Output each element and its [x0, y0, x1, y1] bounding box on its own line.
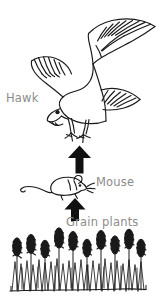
grain-head: [55, 228, 65, 248]
grain-head: [69, 232, 79, 251]
grain-head: [13, 238, 23, 258]
wheat-grain-field-icon: [10, 228, 146, 291]
grain-head: [41, 240, 51, 258]
food-chain-diagram: Hawk Mouse Grain plants: [0, 0, 159, 303]
mouse-eye-icon: [79, 184, 82, 187]
grain-head: [125, 229, 135, 249]
diagram-artwork: [0, 0, 159, 303]
mouse-rodent-icon: [21, 175, 95, 200]
label-hawk: Hawk: [6, 93, 39, 105]
hawk-eye-icon: [55, 110, 59, 114]
arrow-mouse-to-hawk: [68, 146, 91, 174]
grain-head: [97, 231, 107, 250]
label-mouse: Mouse: [96, 177, 134, 189]
grain-head: [111, 236, 121, 254]
hawk-bird-icon: [31, 19, 155, 126]
grain-head: [27, 235, 37, 256]
grain-head: [137, 239, 147, 257]
grain-head: [83, 239, 93, 257]
label-grain-plants: Grain plants: [66, 217, 139, 229]
